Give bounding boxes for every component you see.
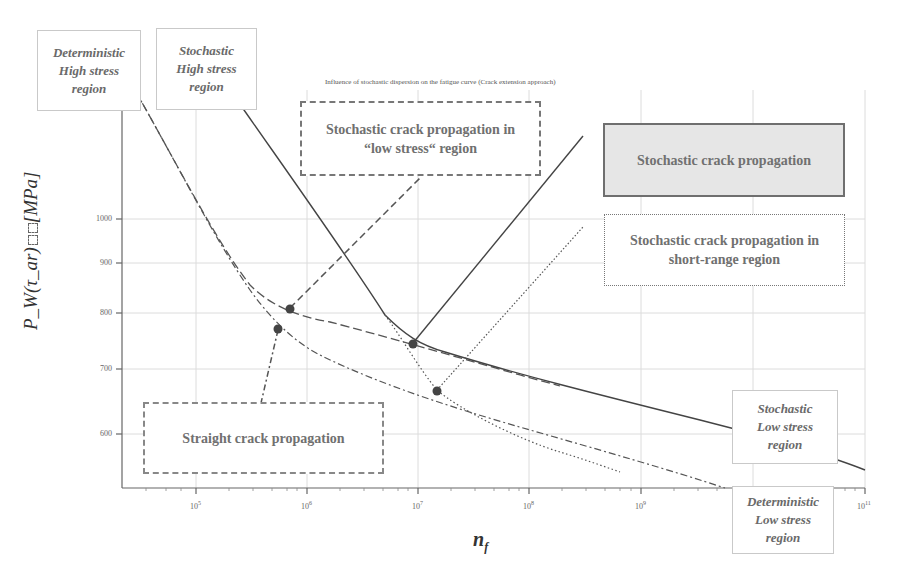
ytick-600: 600 [72,429,112,438]
xtick-1e6: 106 [301,500,312,511]
legend-straight: Straight crack propagation [143,402,384,474]
xtick-1e11: 1011 [857,500,871,511]
region-deterministic-low: Deterministic Low stress region [732,486,834,554]
ytick-1000: 1000 [72,214,112,223]
curve-short-range [385,315,620,472]
xtick-1e9: 109 [635,500,646,511]
xtick-1e8: 108 [523,500,534,511]
region-stochastic-high: Stochastic High stress region [156,28,257,110]
x-axis-label: nf [473,528,488,555]
ytick-900: 900 [72,258,112,267]
chart-title: Influence of stochastic dispersion on th… [325,78,556,86]
leader-low-stress [290,178,420,308]
leader-straight [261,330,278,403]
ytick-800: 800 [72,308,112,317]
legend-stochastic: Stochastic crack propagation [603,123,845,197]
xtick-1e5: 105 [190,500,201,511]
marker-short-range [433,387,442,396]
y-axis-label: P_W(τ_ar)[MPa] [20,171,42,330]
marker-stochastic [409,340,418,349]
ytick-700: 700 [72,364,112,373]
marker-straight [274,325,283,334]
leader-short-range [437,227,583,390]
region-stochastic-low: Stochastic Low stress region [732,390,838,464]
legend-short-range: Stochastic crack propagation in short-ra… [604,214,845,286]
xtick-1e7: 107 [412,500,423,511]
marker-low-stress [286,305,295,314]
legend-low-stress: Stochastic crack propagation in “low str… [300,101,541,176]
region-deterministic-high: Deterministic High stress region [37,30,141,111]
